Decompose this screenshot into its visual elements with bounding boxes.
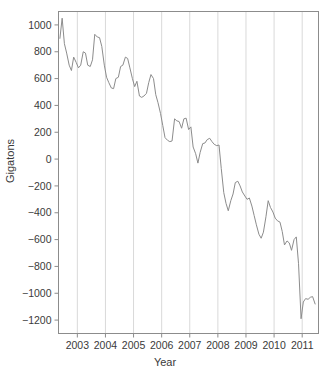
- x-tick-label: 2008: [206, 339, 230, 351]
- y-tick-label: 0: [46, 153, 52, 165]
- y-tick-label: 400: [34, 99, 52, 111]
- y-tick-label: 600: [34, 72, 52, 84]
- y-tick-label: −400: [28, 206, 52, 218]
- x-tick-label: 2010: [262, 339, 286, 351]
- x-axis-ticks: 200320042005200620072008200920102011: [66, 334, 314, 351]
- chart-container: Gigatons Year 10008006004002000−200−400−…: [0, 0, 330, 379]
- x-tick-label: 2003: [66, 339, 90, 351]
- x-tick-label: 2004: [94, 339, 118, 351]
- x-tick-label: 2009: [234, 339, 258, 351]
- y-tick-label: 800: [34, 45, 52, 57]
- y-tick-label: 200: [34, 126, 52, 138]
- y-tick-label: −800: [28, 260, 52, 272]
- y-tick-label: −600: [28, 233, 52, 245]
- y-tick-label: −1000: [22, 287, 52, 299]
- y-tick-label: −1200: [22, 314, 52, 326]
- y-axis-ticks: 10008006004002000−200−400−600−800−1000−1…: [22, 19, 59, 326]
- y-tick-label: −200: [28, 180, 52, 192]
- x-tick-label: 2006: [150, 339, 174, 351]
- data-series-line: [60, 18, 315, 319]
- line-chart-plot: 10008006004002000−200−400−600−800−1000−1…: [0, 0, 330, 379]
- y-tick-label: 1000: [28, 19, 52, 31]
- vertical-gridlines: [77, 12, 302, 334]
- plot-frame: [59, 12, 319, 334]
- x-tick-label: 2005: [122, 339, 146, 351]
- x-tick-label: 2011: [291, 339, 314, 351]
- x-tick-label: 2007: [178, 339, 202, 351]
